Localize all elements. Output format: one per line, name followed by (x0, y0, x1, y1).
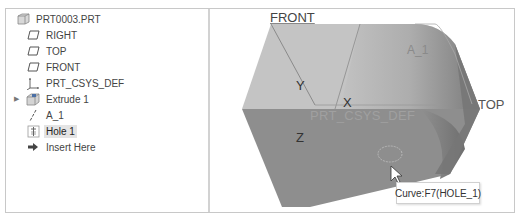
tree-item-label: RIGHT (44, 29, 79, 42)
extrude-icon (26, 92, 40, 106)
graphics-viewport[interactable]: FRONT TOP A_1 PRT_CSYS_DEF Y X Z Curve:F… (210, 9, 514, 212)
top-plane-label: TOP (478, 97, 505, 112)
main-window: PRT0003.PRT RIGHT TOP FRONT PRT_CSYS_DEF (5, 8, 515, 213)
datum-plane-icon (26, 60, 40, 74)
tree-item-label: TOP (44, 45, 68, 58)
part-icon (16, 12, 30, 26)
z-axis-label: Z (296, 130, 304, 145)
expand-arrow-icon[interactable]: ▶ (6, 95, 26, 103)
tree-item-label: Insert Here (44, 141, 97, 154)
tree-item-label: Extrude 1 (44, 93, 91, 106)
model-tree: PRT0003.PRT RIGHT TOP FRONT PRT_CSYS_DEF (6, 9, 208, 212)
y-axis-label: Y (296, 78, 305, 93)
tree-item-label: Hole 1 (44, 125, 77, 138)
axis-a-1-label: A_1 (407, 43, 428, 57)
datum-plane-icon (26, 44, 40, 58)
selection-tooltip: Curve:F7(HOLE_1) (396, 182, 480, 204)
x-axis-label: X (343, 95, 352, 110)
csys-label: PRT_CSYS_DEF (310, 108, 415, 123)
axis-icon (26, 108, 40, 122)
coordinate-system-icon (26, 76, 40, 90)
tree-item-label: PRT0003.PRT (34, 13, 103, 26)
tree-item-label: A_1 (44, 109, 66, 122)
hole-icon (26, 124, 40, 138)
datum-plane-icon (26, 28, 40, 42)
insert-arrow-icon (26, 140, 40, 154)
tree-item-label: PRT_CSYS_DEF (44, 77, 126, 90)
tree-item-label: FRONT (44, 61, 82, 74)
tree-item-insert-here[interactable]: Insert Here (26, 138, 97, 156)
front-plane-label: FRONT (270, 10, 315, 25)
